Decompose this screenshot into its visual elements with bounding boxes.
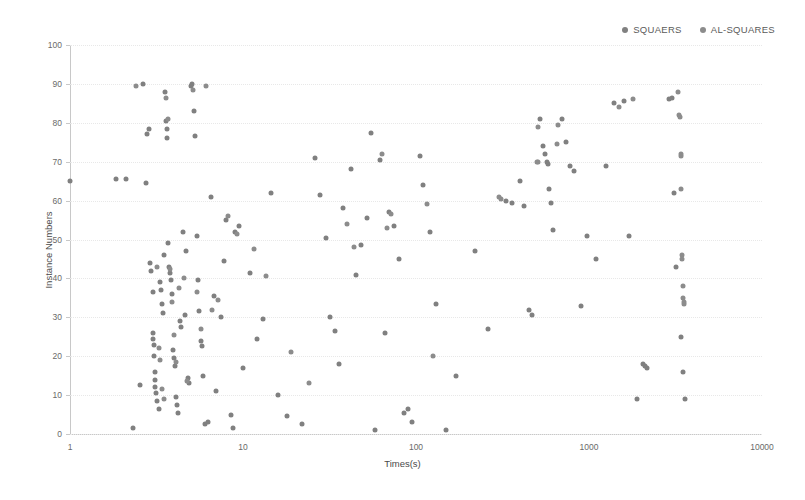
legend-item-al-squares[interactable]: AL-SQUARES <box>700 24 775 35</box>
legend-item-squaers[interactable]: SQUAERS <box>622 24 682 35</box>
x-axis-title: Times(s) <box>0 458 805 469</box>
data-point <box>503 198 508 203</box>
data-point <box>644 365 649 370</box>
data-point <box>669 95 674 100</box>
data-point <box>306 381 311 386</box>
data-point <box>683 396 688 401</box>
data-point <box>164 126 169 131</box>
scatter-chart: SQUAERS AL-SQUARES Instance Numbers Time… <box>0 0 805 500</box>
data-point <box>169 278 174 283</box>
data-point <box>165 136 170 141</box>
data-point <box>635 396 640 401</box>
data-point <box>594 256 599 261</box>
data-point <box>157 346 162 351</box>
data-point <box>354 272 359 277</box>
gridline-y <box>70 201 762 202</box>
data-point <box>171 332 176 337</box>
data-point <box>158 358 163 363</box>
data-point <box>473 249 478 254</box>
data-point <box>130 426 135 431</box>
data-point <box>151 336 156 341</box>
y-tick-mark <box>66 45 70 46</box>
y-tick-label: 70 <box>32 157 62 167</box>
data-point <box>268 190 273 195</box>
data-point <box>603 163 608 168</box>
data-point <box>254 336 259 341</box>
y-tick-mark <box>66 317 70 318</box>
y-tick-label: 60 <box>32 196 62 206</box>
data-point <box>162 253 167 258</box>
gridline-y <box>70 162 762 163</box>
data-point <box>564 140 569 145</box>
y-tick-mark <box>66 356 70 357</box>
data-point <box>546 161 551 166</box>
legend-label-al-squares: AL-SQUARES <box>711 24 775 35</box>
data-point <box>190 81 195 86</box>
data-point <box>150 330 155 335</box>
data-point <box>300 422 305 427</box>
data-point <box>173 360 178 365</box>
y-tick-mark <box>66 162 70 163</box>
data-point <box>530 313 535 318</box>
data-point <box>138 383 143 388</box>
data-point <box>199 326 204 331</box>
data-point <box>430 354 435 359</box>
y-tick-mark <box>66 201 70 202</box>
y-tick-mark <box>66 84 70 85</box>
data-point <box>260 317 265 322</box>
y-tick-mark <box>66 123 70 124</box>
data-point <box>543 151 548 156</box>
data-point <box>328 315 333 320</box>
legend-label-squaers: SQUAERS <box>633 24 682 35</box>
y-tick-label: 90 <box>32 79 62 89</box>
data-point <box>146 126 151 131</box>
data-point <box>175 410 180 415</box>
x-tick-label: 10 <box>238 442 247 452</box>
data-point <box>622 99 627 104</box>
data-point <box>114 177 119 182</box>
data-point <box>169 299 174 304</box>
y-tick-mark <box>66 240 70 241</box>
y-tick-label: 50 <box>32 235 62 245</box>
gridline-y <box>70 317 762 318</box>
data-point <box>674 264 679 269</box>
legend-marker-squaers <box>622 27 628 33</box>
y-tick-mark <box>66 434 70 435</box>
data-point <box>358 243 363 248</box>
data-point <box>170 291 175 296</box>
data-point <box>612 101 617 106</box>
data-point <box>378 157 383 162</box>
data-point <box>234 231 239 236</box>
data-point <box>276 393 281 398</box>
data-point <box>251 247 256 252</box>
data-point <box>679 186 684 191</box>
data-point <box>453 373 458 378</box>
data-point <box>181 276 186 281</box>
data-point <box>214 389 219 394</box>
x-tick-label: 100 <box>409 442 423 452</box>
data-point <box>141 81 146 86</box>
x-tick-label: 1000 <box>580 442 599 452</box>
data-point <box>200 344 205 349</box>
data-point <box>226 214 231 219</box>
data-point <box>194 233 199 238</box>
data-point <box>193 134 198 139</box>
legend-marker-al-squares <box>700 27 706 33</box>
data-point <box>151 342 156 347</box>
data-point <box>518 179 523 184</box>
data-point <box>144 181 149 186</box>
y-tick-label: 100 <box>32 40 62 50</box>
data-point <box>352 245 357 250</box>
data-point <box>672 190 677 195</box>
data-point <box>677 114 682 119</box>
x-tick-label: 1 <box>68 442 73 452</box>
data-point <box>485 326 490 331</box>
data-point <box>318 192 323 197</box>
data-point <box>555 122 560 127</box>
data-point <box>151 354 156 359</box>
data-point <box>167 266 172 271</box>
gridline-y <box>70 240 762 241</box>
data-point <box>155 398 160 403</box>
y-tick-label: 10 <box>32 390 62 400</box>
data-point <box>332 328 337 333</box>
